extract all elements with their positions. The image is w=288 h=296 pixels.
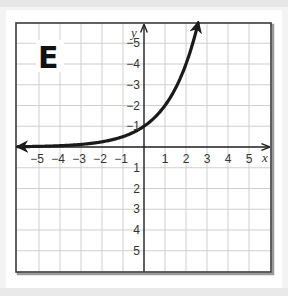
y-tick-label: −1	[126, 119, 140, 133]
y-tick-label: 5	[133, 244, 140, 258]
x-tick-label: −5	[30, 152, 44, 166]
y-tick-label: 2	[133, 182, 140, 196]
coordinate-plane: −5−4−3−2−112345 54321−1−2−3−4−5 y x E	[0, 0, 288, 296]
x-tick-label: −3	[72, 152, 86, 166]
x-tick-label: 4	[225, 152, 232, 166]
y-tick-label: −4	[126, 57, 140, 71]
x-tick-label: −1	[114, 152, 128, 166]
x-tick-label: 2	[183, 152, 190, 166]
y-tick-label: 3	[133, 202, 140, 216]
x-tick-label: −2	[93, 152, 107, 166]
panel-label-e: E	[38, 40, 59, 75]
x-tick-label: 3	[204, 152, 211, 166]
x-axis-label: x	[261, 150, 268, 165]
x-tick-label: 1	[162, 152, 169, 166]
y-tick-label: −2	[126, 99, 140, 113]
y-tick-label: −3	[126, 78, 140, 92]
x-tick-label: 5	[246, 152, 253, 166]
y-tick-label: 4	[133, 223, 140, 237]
x-tick-label: −4	[51, 152, 65, 166]
y-tick-label: 1	[133, 161, 140, 175]
y-axis-label: y	[129, 25, 137, 40]
